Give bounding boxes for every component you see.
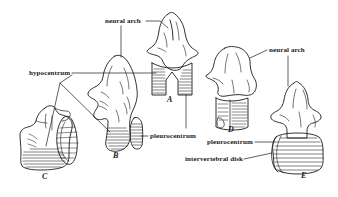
label-neural-arch-left: neural arch [105,18,141,25]
label-pleurocentrum-b: pleurocentrum [150,133,196,140]
specimen-d-drawing [206,47,256,131]
specimen-letter-c: C [42,173,47,181]
leader-neural-arch-a [146,21,168,28]
specimen-e-drawing [271,82,323,175]
label-hypocentrum: hypocentrum [29,70,70,77]
label-neural-arch-right: neural arch [269,47,305,54]
leader-intervertebral-disk [244,153,272,159]
label-pleurocentrum-e: pleurocentrum [207,139,253,146]
specimen-letter-d: D [228,126,234,134]
specimen-c-drawing [20,106,78,170]
leader-hypocentrum-c [46,75,72,146]
specimen-b-drawing [88,55,143,151]
leader-neural-arch-d [250,50,267,58]
specimen-letter-a: A [167,96,172,104]
label-intervertebral-disk: intervertebral disk [185,156,243,163]
specimen-letter-b: B [113,152,118,160]
vertebra-diagram-figure: neural arch hypocentrum pleurocentrum ne… [0,0,338,197]
specimen-letter-e: E [301,172,306,180]
specimen-a-drawing [147,13,198,96]
